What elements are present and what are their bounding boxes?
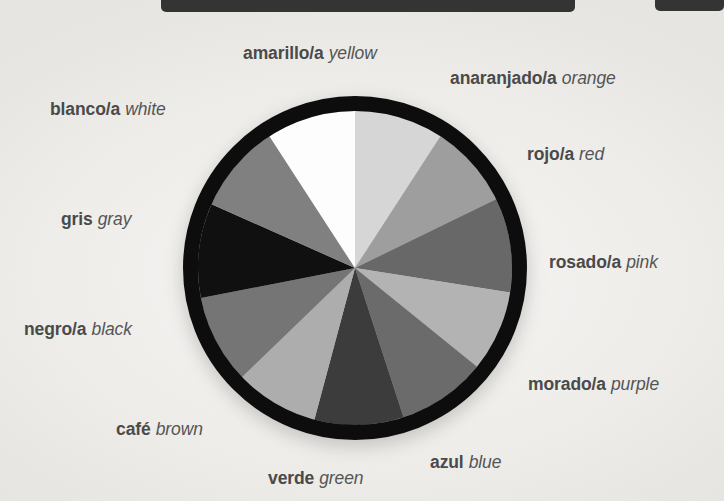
label-verde-english: green (319, 468, 363, 488)
top-bar-right (655, 0, 724, 11)
label-azul: azulblue (430, 452, 501, 473)
label-gris-english: gray (98, 209, 132, 229)
label-azul-english: blue (469, 452, 502, 472)
label-morado: morado/apurple (528, 374, 659, 395)
label-rojo-spanish: rojo/a (527, 144, 574, 164)
label-amarillo: amarillo/ayellow (243, 43, 377, 64)
label-azul-spanish: azul (430, 452, 464, 472)
wheel-slice-group (198, 111, 512, 425)
color-wheel-svg (176, 89, 534, 447)
label-cafe: cafébrown (116, 419, 203, 440)
label-cafe-english: brown (156, 419, 203, 439)
label-cafe-spanish: café (116, 419, 151, 439)
label-blanco-english: white (125, 99, 165, 119)
label-amarillo-spanish: amarillo/a (243, 43, 324, 63)
label-rosado-spanish: rosado/a (549, 252, 621, 272)
label-morado-english: purple (611, 374, 659, 394)
label-blanco: blanco/awhite (50, 99, 166, 120)
label-negro-english: black (92, 319, 132, 339)
label-rosado-english: pink (626, 252, 658, 272)
label-verde-spanish: verde (268, 468, 314, 488)
label-anaranjado: anaranjado/aorange (450, 68, 616, 89)
label-anaranjado-spanish: anaranjado/a (450, 68, 557, 88)
color-wheel (176, 89, 534, 447)
top-bar-left (161, 0, 575, 12)
label-rojo-english: red (579, 144, 604, 164)
label-gris-spanish: gris (61, 209, 93, 229)
label-amarillo-english: yellow (329, 43, 377, 63)
label-negro-spanish: negro/a (24, 319, 87, 339)
label-morado-spanish: morado/a (528, 374, 606, 394)
label-anaranjado-english: orange (562, 68, 616, 88)
label-negro: negro/ablack (24, 319, 132, 340)
label-gris: grisgray (61, 209, 131, 230)
label-verde: verdegreen (268, 468, 363, 489)
label-rosado: rosado/apink (549, 252, 658, 273)
label-rojo: rojo/ared (527, 144, 604, 165)
label-blanco-spanish: blanco/a (50, 99, 120, 119)
